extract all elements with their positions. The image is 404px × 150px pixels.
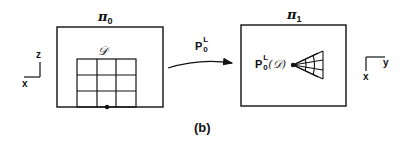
left-axis-x-label: x: [22, 79, 28, 89]
mapping-arrow: [168, 61, 232, 68]
image-operator: P: [255, 58, 262, 70]
pi0-subscript: 0: [108, 16, 113, 26]
mapping-operator-label: PL0: [195, 41, 208, 53]
figure-caption: (b): [194, 121, 211, 134]
mapping-superscript: L: [203, 36, 208, 44]
pi1-symbol: π: [287, 7, 297, 22]
right-axis-x-label: x: [363, 72, 369, 82]
left-axis-z-label: z: [36, 50, 41, 60]
region-d-label: 𝒟: [98, 45, 108, 57]
region-d-grid: [77, 59, 136, 107]
plane-pi0-label: π0: [98, 10, 113, 26]
mapping-scripts: L0: [202, 41, 208, 53]
left-axes-icon: [24, 62, 40, 77]
mapping-operator: P: [195, 40, 202, 52]
grid-anchor-point: [105, 105, 109, 109]
plane-pi0-box: [57, 27, 163, 107]
image-argument: (𝒟): [268, 58, 286, 71]
image-superscript: L: [263, 54, 268, 62]
plane-pi1-label: π1: [287, 8, 302, 24]
projected-region-label: PL0(𝒟): [255, 59, 286, 71]
pi1-subscript: 1: [297, 14, 302, 24]
projected-point: [291, 63, 295, 67]
image-scripts: L0: [262, 59, 268, 71]
image-subscript: 0: [263, 64, 267, 72]
mapping-subscript: 0: [203, 46, 207, 54]
pi0-symbol: π: [98, 9, 108, 24]
projected-fan: [293, 51, 323, 79]
right-axis-y-label: y: [383, 58, 389, 68]
